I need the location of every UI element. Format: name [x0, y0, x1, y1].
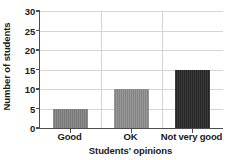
x-axis-title: Students' opinions [39, 145, 222, 156]
y-axis-tick-label: 5 [30, 103, 35, 114]
plot-area [39, 11, 223, 129]
y-axis-tick-label: 25 [25, 25, 35, 36]
y-axis-tick-label: 30 [25, 6, 35, 17]
x-axis-tick-label: Good [58, 131, 82, 142]
y-axis-tick-mark [36, 108, 40, 110]
y-axis-tick-mark [36, 88, 40, 90]
gridline-vertical [101, 11, 102, 128]
y-axis-tick-label: 15 [25, 64, 35, 75]
y-axis-tick-label: 10 [25, 84, 35, 95]
y-axis-tick-mark [36, 10, 40, 12]
x-axis-tick-label: OK [124, 131, 138, 142]
x-axis-tick-label: Not very good [161, 131, 222, 142]
gridline-horizontal [40, 50, 223, 51]
bar-chart: Number of students 051015202530 GoodOKNo… [0, 0, 233, 160]
y-axis-title: Number of students [0, 0, 14, 132]
y-axis-tick-mark [36, 127, 40, 129]
bar [114, 89, 148, 128]
gridline-vertical [162, 11, 163, 128]
gridline-horizontal [40, 11, 223, 12]
bar [175, 70, 209, 129]
x-axis-tick-labels: GoodOKNot very good [39, 131, 222, 145]
y-axis-tick-label: 0 [30, 123, 35, 134]
y-axis-tick-mark [36, 69, 40, 71]
y-axis-tick-mark [36, 49, 40, 51]
gridline-horizontal [40, 31, 223, 32]
y-axis-tick-label: 20 [25, 45, 35, 56]
y-axis-title-text: Number of students [2, 22, 13, 110]
y-axis-tick-labels: 051015202530 [14, 0, 38, 132]
bar [53, 109, 87, 129]
y-axis-tick-mark [36, 30, 40, 32]
